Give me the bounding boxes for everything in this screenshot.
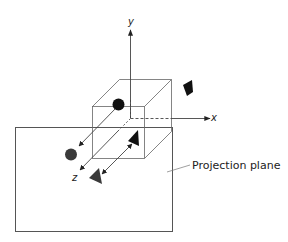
triangle-object: [128, 130, 139, 146]
projection-diagram: [0, 0, 288, 242]
sphere-projection: [65, 149, 77, 161]
trapezoid-object: [183, 80, 193, 96]
triangle-projection-ray: [102, 144, 132, 174]
y-axis-label: y: [128, 17, 134, 27]
x-axis-label: x: [211, 113, 217, 123]
projection-plane-leader: [167, 165, 190, 172]
z-axis-hidden: [118, 119, 131, 132]
triangle-projection: [89, 168, 102, 184]
sphere-object: [113, 99, 125, 111]
cube: [93, 80, 172, 159]
z-axis-label: z: [72, 173, 77, 183]
projection-plane-label: Projection plane: [192, 160, 280, 171]
